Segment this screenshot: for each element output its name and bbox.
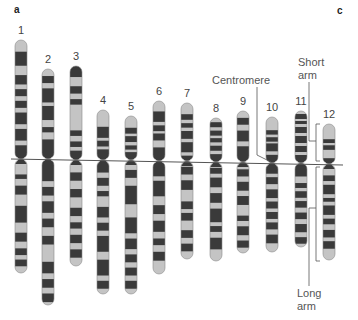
long-arm-label: Long arm [297, 287, 321, 313]
chromosome-number-5: 5 [128, 100, 134, 112]
centromere-line [11, 159, 343, 165]
chromosome-6 [152, 101, 166, 274]
chromosome-ideogram [0, 0, 358, 320]
chromosome-number-10: 10 [266, 101, 278, 113]
chromosome-5 [124, 116, 138, 294]
chromosome-number-2: 2 [45, 53, 51, 65]
karyotype-figure: a c 123456789101112 Centromere Short arm… [0, 0, 358, 320]
chromosome-4 [96, 110, 110, 294]
long-arm-label-line2: arm [297, 300, 321, 313]
long-arm-bracket [316, 167, 320, 261]
chromosome-number-7: 7 [184, 87, 190, 99]
short-arm-bracket [316, 124, 320, 161]
chromosome-1 [14, 40, 28, 273]
chromosome-number-4: 4 [100, 94, 106, 106]
chromosome-2 [41, 69, 55, 305]
chromosome-number-11: 11 [295, 95, 306, 107]
panel-label-c: c [337, 5, 343, 16]
long-arm-leader [309, 208, 316, 286]
chromosome-number-6: 6 [156, 85, 162, 97]
short-arm-label-line1: Short [298, 56, 324, 69]
short-arm-label-line2: arm [298, 69, 324, 82]
centromere-label: Centromere [212, 74, 270, 87]
chromosome-12 [322, 124, 336, 260]
panel-label-a: a [14, 4, 20, 15]
long-arm-label-line1: Long [297, 287, 321, 300]
chromosome-number-1: 1 [18, 24, 24, 36]
chromosome-8 [209, 118, 223, 261]
short-arm-leader [309, 82, 316, 141]
chromosome-number-8: 8 [213, 102, 219, 114]
chromosome-number-9: 9 [240, 95, 246, 107]
chromosome-10 [265, 117, 279, 252]
chromosome-number-12: 12 [323, 108, 335, 120]
short-arm-label: Short arm [298, 56, 324, 82]
chromosome-number-3: 3 [73, 50, 79, 62]
chromosome-3 [69, 66, 83, 266]
chromosome-7 [180, 103, 194, 259]
chromosome-11 [294, 111, 308, 247]
chromosome-9 [236, 111, 250, 253]
